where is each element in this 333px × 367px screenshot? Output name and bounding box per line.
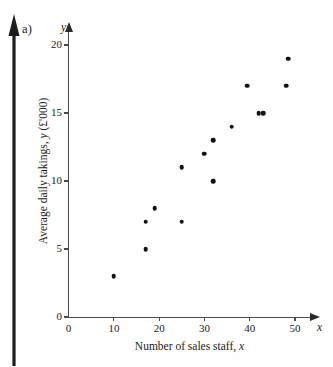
data-point: [286, 56, 291, 61]
x-tick-label: 50: [283, 322, 307, 334]
x-axis-symbol: x: [317, 321, 322, 333]
x-tick-label: 20: [147, 322, 171, 334]
data-point: [284, 84, 289, 89]
y-tick-label: 0: [40, 310, 62, 322]
y-tick-mark: [64, 112, 68, 113]
data-point: [143, 247, 148, 252]
data-point: [202, 152, 207, 157]
data-point: [245, 84, 250, 89]
x-axis-arrowhead-icon: [310, 313, 320, 321]
scatter-plot-figure: a) y x 0510152001020304050 Number of sal…: [0, 0, 333, 367]
y-tick-mark: [64, 248, 68, 249]
data-point: [143, 220, 148, 225]
data-point: [180, 165, 185, 170]
data-point: [229, 124, 234, 129]
x-tick-label: 10: [102, 322, 126, 334]
y-axis-title-var: y: [37, 133, 49, 138]
x-tick-mark: [159, 317, 160, 321]
y-axis-line: [68, 30, 69, 318]
y-axis-symbol: y: [61, 21, 66, 33]
data-point: [211, 179, 216, 184]
x-tick-label: 30: [192, 322, 216, 334]
x-tick-mark: [113, 317, 114, 321]
data-point: [152, 206, 157, 211]
x-axis-title-var: x: [239, 340, 244, 352]
x-tick-label: 40: [238, 322, 262, 334]
x-tick-mark: [204, 317, 205, 321]
data-point: [261, 111, 266, 116]
data-point: [112, 274, 117, 279]
x-axis-title-text: Number of sales staff,: [135, 340, 236, 352]
x-tick-mark: [249, 317, 250, 321]
plot-area: y x 0510152001020304050 Number of sales …: [0, 0, 333, 367]
y-tick-label: 20: [40, 38, 62, 50]
y-axis-title: Average daily takings, y (£'000): [37, 71, 49, 271]
x-tick-label: 0: [57, 322, 81, 334]
y-tick-mark: [64, 44, 68, 45]
y-axis-title-units: (£'000): [37, 98, 49, 131]
x-axis-title: Number of sales staff, x: [68, 340, 311, 352]
data-point: [180, 220, 185, 225]
data-point: [211, 138, 216, 143]
y-tick-mark: [64, 180, 68, 181]
x-tick-mark: [294, 317, 295, 321]
y-tick-mark: [64, 316, 68, 317]
x-axis-line: [68, 317, 311, 318]
y-axis-title-text: Average daily takings,: [37, 141, 49, 244]
